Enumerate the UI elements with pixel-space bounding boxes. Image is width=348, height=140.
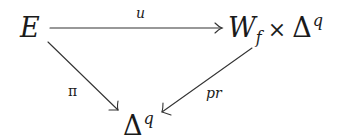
arrow-pr — [162, 48, 252, 112]
node-Delta-q: Δq — [123, 112, 154, 139]
node-E: E — [20, 14, 40, 41]
times-operator: × — [268, 17, 286, 42]
q-superscript: q — [144, 109, 154, 128]
arrow-pi — [48, 42, 118, 110]
W-symbol: W — [228, 12, 256, 43]
node-E-label: E — [20, 12, 40, 43]
Delta-symbol: Δ — [123, 110, 143, 140]
label-u: u — [136, 6, 145, 20]
node-Wf-times-Delta: Wf×Δq — [228, 14, 323, 41]
label-pi: π — [68, 84, 77, 98]
Delta-symbol: Δ — [292, 12, 312, 43]
commutative-diagram: E Wf×Δq Δq u π pr — [0, 0, 348, 140]
f-subscript: f — [256, 28, 262, 47]
q-superscript: q — [313, 11, 323, 30]
label-pr: pr — [206, 86, 222, 100]
